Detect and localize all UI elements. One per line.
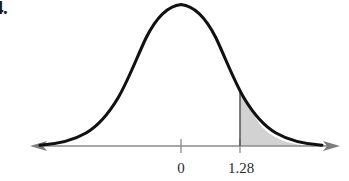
tick-label-zero: 0 [177, 160, 185, 176]
tick-label-1-28: 1.28 [228, 160, 254, 176]
normal-curve-figure: 4. 0 1.28 [0, 0, 349, 181]
normal-distribution-plot: 0 1.28 [0, 0, 349, 181]
normal-curve-path [40, 5, 322, 146]
